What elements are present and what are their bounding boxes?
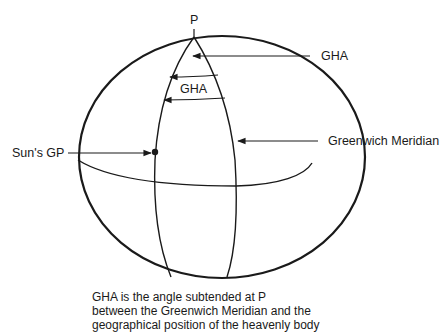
meridian-sun xyxy=(155,37,194,277)
sphere-outline xyxy=(79,36,365,278)
caption: GHA is the angle subtended at P between … xyxy=(92,290,320,332)
gha-label-inner: GHA xyxy=(180,83,207,96)
gha-arc-lower xyxy=(164,98,225,100)
caption-line-2: between the Greenwich Meridian and the xyxy=(92,304,320,318)
celestial-sphere-diagram xyxy=(0,0,441,335)
pole-label: P xyxy=(190,14,198,27)
caption-line-3: geographical position of the heavenly bo… xyxy=(92,318,320,332)
meridian-greenwich xyxy=(194,37,236,277)
caption-line-1: GHA is the angle subtended at P xyxy=(92,290,320,304)
sun-gp-dot xyxy=(152,149,158,155)
equator xyxy=(78,160,312,186)
gha-label-top: GHA xyxy=(321,50,348,63)
sun-gp-label: Sun's GP xyxy=(12,147,64,160)
gha-arc-upper xyxy=(170,75,218,77)
greenwich-meridian-label: Greenwich Meridian xyxy=(328,135,439,148)
